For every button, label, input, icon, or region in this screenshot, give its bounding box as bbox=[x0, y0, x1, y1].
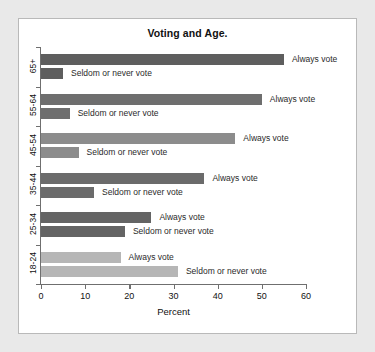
x-axis-title: Percent bbox=[41, 306, 306, 317]
bar-label: Seldom or never vote bbox=[133, 226, 214, 237]
bar[interactable] bbox=[41, 94, 262, 105]
chart-card: Voting and Age. Always voteSeldom or nev… bbox=[18, 18, 357, 334]
bar[interactable] bbox=[41, 147, 79, 158]
bar-label: Seldom or never vote bbox=[186, 266, 267, 277]
x-tick-label: 60 bbox=[301, 291, 311, 301]
bar-group: Always voteSeldom or never vote bbox=[41, 126, 306, 166]
bar-row[interactable]: Seldom or never vote bbox=[41, 226, 214, 237]
chart-title: Voting and Age. bbox=[19, 27, 356, 39]
bar-row[interactable]: Always vote bbox=[41, 133, 289, 144]
bar-label: Always vote bbox=[243, 133, 288, 144]
bar-label: Seldom or never vote bbox=[102, 187, 183, 198]
bar-group: Always voteSeldom or never vote bbox=[41, 205, 306, 245]
x-tick-label: 30 bbox=[168, 291, 178, 301]
bar-row[interactable]: Seldom or never vote bbox=[41, 68, 152, 79]
bar[interactable] bbox=[41, 133, 235, 144]
bar[interactable] bbox=[41, 108, 70, 119]
y-category-label: 65+ bbox=[28, 46, 38, 86]
x-axis-tick bbox=[129, 284, 130, 289]
bar-group: Always voteSeldom or never vote bbox=[41, 47, 306, 87]
bar-label: Seldom or never vote bbox=[87, 147, 168, 158]
bar-row[interactable]: Always vote bbox=[41, 212, 205, 223]
bar-row[interactable]: Always vote bbox=[41, 94, 315, 105]
bar-row[interactable]: Always vote bbox=[41, 252, 174, 263]
x-tick-label: 40 bbox=[213, 291, 223, 301]
x-axis-tick bbox=[85, 284, 86, 289]
bar[interactable] bbox=[41, 252, 121, 263]
bar-group: Always voteSeldom or never vote bbox=[41, 87, 306, 127]
plot-area: Always voteSeldom or never voteAlways vo… bbox=[41, 47, 306, 284]
y-category-label: 55-64 bbox=[28, 86, 38, 126]
bar-row[interactable]: Seldom or never vote bbox=[41, 108, 159, 119]
bar[interactable] bbox=[41, 187, 94, 198]
bar-label: Seldom or never vote bbox=[78, 108, 159, 119]
bar[interactable] bbox=[41, 54, 284, 65]
bar-group: Always voteSeldom or never vote bbox=[41, 166, 306, 206]
bar-label: Always vote bbox=[129, 252, 174, 263]
x-axis-tick bbox=[262, 284, 263, 289]
bar-row[interactable]: Always vote bbox=[41, 173, 258, 184]
x-axis-tick bbox=[306, 284, 307, 289]
bar-row[interactable]: Seldom or never vote bbox=[41, 266, 267, 277]
bar[interactable] bbox=[41, 266, 178, 277]
x-tick-label: 50 bbox=[257, 291, 267, 301]
bar[interactable] bbox=[41, 173, 204, 184]
bar-label: Always vote bbox=[292, 54, 337, 65]
y-category-label: 18-24 bbox=[28, 244, 38, 284]
bar-row[interactable]: Seldom or never vote bbox=[41, 187, 183, 198]
y-category-label: 25-34 bbox=[28, 204, 38, 244]
y-category-label: 45-54 bbox=[28, 125, 38, 165]
x-axis-tick bbox=[41, 284, 42, 289]
bar-row[interactable]: Seldom or never vote bbox=[41, 147, 167, 158]
x-axis-tick bbox=[218, 284, 219, 289]
bar[interactable] bbox=[41, 212, 151, 223]
bar-label: Seldom or never vote bbox=[71, 68, 152, 79]
y-category-label: 35-44 bbox=[28, 165, 38, 205]
bar[interactable] bbox=[41, 68, 63, 79]
x-tick-label: 10 bbox=[80, 291, 90, 301]
bar-label: Always vote bbox=[159, 212, 204, 223]
x-tick-label: 20 bbox=[124, 291, 134, 301]
bar[interactable] bbox=[41, 226, 125, 237]
bar-group: Always voteSeldom or never vote bbox=[41, 245, 306, 285]
bar-label: Always vote bbox=[270, 94, 315, 105]
bar-row[interactable]: Always vote bbox=[41, 54, 337, 65]
bar-label: Always vote bbox=[212, 173, 257, 184]
x-axis-tick bbox=[174, 284, 175, 289]
x-tick-label: 0 bbox=[38, 291, 43, 301]
page-root: Voting and Age. Always voteSeldom or nev… bbox=[0, 0, 375, 352]
